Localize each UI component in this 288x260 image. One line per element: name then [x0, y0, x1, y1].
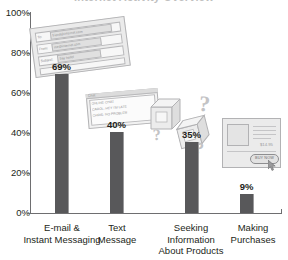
x-axis-endcap — [281, 209, 282, 214]
cursor-icon — [268, 160, 277, 171]
y-tick-20 — [27, 173, 31, 174]
email-window-illustration: To: From: Subject: friend@internet.com m… — [29, 16, 131, 78]
bar-value-text-message: 40% — [102, 120, 131, 130]
y-tick-0 — [27, 213, 31, 214]
category-label-line-2: Message — [91, 234, 143, 246]
y-tick-40 — [27, 133, 31, 134]
y-axis-label-80: 80% — [2, 48, 30, 57]
y-axis-label-40: 40% — [2, 128, 30, 137]
chart-title: Internet Activity Overview — [0, 0, 288, 3]
bar-chart: Internet Activity Overview 100% 80% 60% … — [0, 0, 288, 260]
y-axis-label-100: 100% — [2, 8, 30, 17]
category-label-text-message: Text Message — [91, 222, 143, 245]
category-label-line-2: Purchases — [222, 234, 284, 246]
category-label-seeking-information: Seeking Information About Products — [151, 222, 231, 257]
question-mark-icon-2: ? — [152, 127, 161, 144]
y-axis-labels: 100% 80% 60% 40% 20% 0% — [0, 0, 30, 260]
email-field-to-label: To: — [37, 35, 42, 40]
y-axis-label-20: 20% — [2, 168, 30, 177]
category-label-making-purchases: Making Purchases — [222, 222, 284, 245]
category-label-line-3: About Products — [151, 245, 231, 257]
category-label-line-2: Information — [151, 234, 231, 246]
y-tick-100 — [27, 13, 31, 14]
bar-text-message — [110, 132, 124, 213]
question-mark-icon-1: ? — [198, 92, 211, 115]
bar-making-purchases — [240, 194, 254, 213]
y-axis-label-0: 0% — [2, 208, 30, 217]
category-label-line-1: Text — [91, 222, 143, 234]
y-tick-60 — [27, 93, 31, 94]
y-tick-80 — [27, 53, 31, 54]
bar-value-seeking-information: 35% — [177, 130, 206, 140]
bar-value-making-purchases: 9% — [232, 182, 261, 192]
bar-email-instant-messaging — [55, 74, 69, 213]
x-axis-line — [30, 213, 282, 214]
category-label-line-1: Seeking — [151, 222, 231, 234]
bar-value-email-instant-messaging: 69% — [47, 62, 76, 72]
category-label-line-1: Making — [222, 222, 284, 234]
y-axis-label-60: 60% — [2, 88, 30, 97]
chat-window-title: Chat — [88, 93, 96, 98]
product-price: $14.95 — [260, 142, 273, 147]
shopping-page-illustration: $14.95 BUY NOW — [222, 118, 281, 168]
bar-seeking-information — [185, 142, 199, 213]
product-thumbnail — [227, 124, 249, 146]
